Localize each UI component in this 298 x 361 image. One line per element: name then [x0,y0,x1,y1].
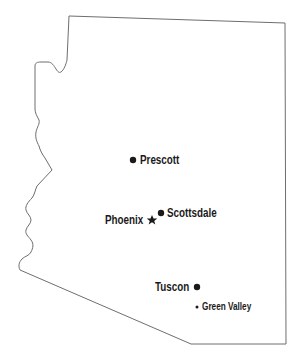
arizona-border [19,16,286,344]
city-label-tuscon: Tuscon [155,281,189,293]
tuscon-dot-icon [194,284,200,290]
city-label-prescott: Prescott [140,154,179,166]
state-outline [0,0,298,361]
prescott-dot-icon [130,157,136,163]
city-label-green-valley: Green Valley [202,302,251,312]
scottsdale-dot-icon [158,210,164,216]
arizona-map: Prescott Phoenix Scottsdale Tuscon Green… [0,0,298,361]
city-label-phoenix: Phoenix [105,214,143,226]
green-valley-dot-icon [196,306,199,309]
city-label-scottsdale: Scottsdale [167,207,217,219]
